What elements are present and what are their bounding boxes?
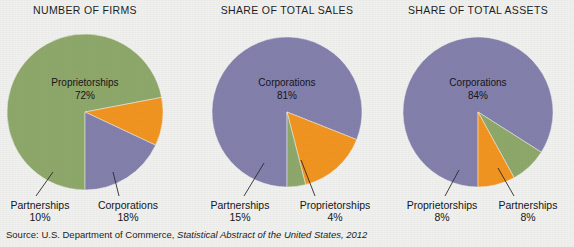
chart-title-share-of-total-sales: SHARE OF TOTAL SALES — [221, 4, 354, 16]
pie-slices-share-of-total-assets — [403, 37, 553, 187]
pie-chart-share-of-total-assets: SHARE OF TOTAL ASSETS Corporations 84% P… — [403, 4, 557, 223]
pie-slices-number-of-firms — [7, 34, 163, 190]
callout-value-partnerships-chart3: 8% — [520, 211, 535, 223]
pie-slices-share-of-total-sales — [212, 37, 362, 187]
callout-name-proprietorships-chart3: Proprietorships — [407, 199, 478, 211]
source-citation: Source: U.S. Department of Commerce, Sta… — [6, 229, 367, 240]
pie-chart-number-of-firms: NUMBER OF FIRMS Proprietorships 72% Part… — [7, 4, 163, 223]
callout-value-partnerships-chart2: 15% — [229, 211, 250, 223]
source-prefix: Source: U.S. Department of Commerce, — [6, 229, 177, 240]
three-pie-chart-figure: NUMBER OF FIRMS Proprietorships 72% Part… — [0, 0, 574, 247]
source-publication-title: Statistical Abstract of the United State… — [177, 229, 367, 240]
inside-label-value-chart2: 81% — [277, 90, 297, 101]
pie-chart-share-of-total-sales: SHARE OF TOTAL SALES Corporations 81% Pa… — [211, 4, 371, 223]
chart-title-share-of-total-assets: SHARE OF TOTAL ASSETS — [408, 4, 548, 16]
inside-label-value-chart3: 84% — [468, 90, 488, 101]
callout-name-proprietorships-chart2: Proprietorships — [300, 199, 371, 211]
inside-label-value-chart1: 72% — [75, 90, 95, 101]
callout-name-partnerships-chart1: Partnerships — [11, 199, 70, 211]
callout-value-proprietorships-chart2: 4% — [327, 211, 342, 223]
callout-value-corporations-chart1: 18% — [117, 211, 138, 223]
callout-value-proprietorships-chart3: 8% — [434, 211, 449, 223]
inside-label-name-chart3: Corporations — [449, 77, 506, 88]
chart-title-number-of-firms: NUMBER OF FIRMS — [33, 4, 137, 16]
inside-label-name-chart2: Corporations — [258, 77, 315, 88]
callout-name-partnerships-chart3: Partnerships — [499, 199, 558, 211]
callout-name-corporations-chart1: Corporations — [98, 199, 158, 211]
inside-label-name-chart1: Proprietorships — [51, 77, 118, 88]
callout-name-partnerships-chart2: Partnerships — [211, 199, 270, 211]
callout-value-partnerships-chart1: 10% — [29, 211, 50, 223]
